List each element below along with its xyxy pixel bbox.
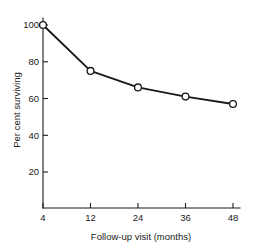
x-tick-label-12: 12 — [85, 212, 96, 223]
y-tick-label-40: 40 — [28, 130, 39, 141]
x-axis-title: Follow-up visit (months) — [91, 231, 191, 242]
x-tick-label-4: 4 — [40, 212, 45, 223]
data-markers — [40, 22, 237, 108]
x-axis-ticks — [43, 203, 233, 208]
data-point-24[interactable] — [135, 84, 142, 91]
y-axis-tick-labels: 100 80 60 40 20 — [23, 19, 39, 177]
y-axis-ticks — [43, 25, 48, 172]
x-tick-label-36: 36 — [180, 212, 191, 223]
y-tick-label-60: 60 — [28, 93, 39, 104]
data-point-12[interactable] — [87, 68, 94, 75]
y-tick-label-20: 20 — [28, 166, 39, 177]
data-point-4[interactable] — [40, 22, 47, 29]
survival-curve — [43, 25, 233, 104]
y-tick-label-80: 80 — [28, 56, 39, 67]
x-tick-label-48: 48 — [228, 212, 239, 223]
x-tick-label-24: 24 — [133, 212, 144, 223]
line-chart: 100 80 60 40 20 4 12 24 36 48 Follow-up … — [0, 0, 256, 247]
y-tick-label-100: 100 — [23, 19, 39, 30]
x-axis-tick-labels: 4 12 24 36 48 — [40, 212, 238, 223]
chart-figure: 100 80 60 40 20 4 12 24 36 48 Follow-up … — [0, 0, 256, 247]
data-point-48[interactable] — [230, 101, 237, 108]
data-point-36[interactable] — [182, 93, 189, 100]
y-axis-title: Per cent surviving — [11, 72, 22, 148]
